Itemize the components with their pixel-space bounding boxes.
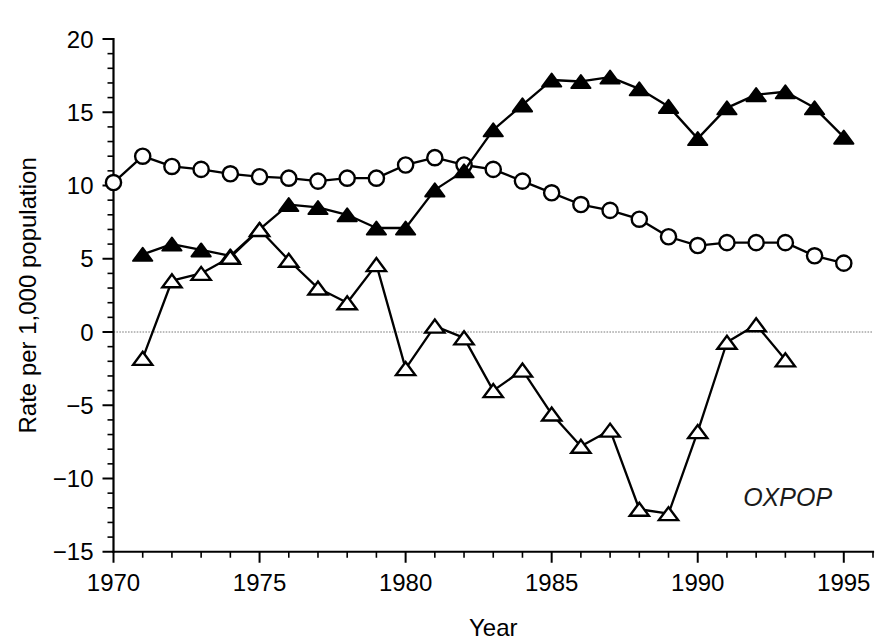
data-point-open-triangle bbox=[367, 258, 386, 271]
x-tick-label: 1980 bbox=[379, 569, 432, 596]
data-point-open-circle bbox=[836, 256, 851, 271]
y-tick-label: 20 bbox=[67, 26, 94, 53]
annotation-layer: OXPOP bbox=[743, 483, 832, 511]
data-point-open-triangle bbox=[513, 364, 532, 377]
y-tick-label: 10 bbox=[67, 172, 94, 199]
data-point-filled-triangle bbox=[630, 82, 649, 95]
data-point-open-circle bbox=[807, 248, 822, 263]
data-point-filled-triangle bbox=[834, 131, 853, 144]
data-point-open-circle bbox=[340, 171, 355, 186]
data-point-open-circle bbox=[164, 159, 179, 174]
data-point-open-circle bbox=[573, 197, 588, 212]
data-point-open-triangle bbox=[425, 320, 444, 333]
data-point-filled-triangle bbox=[192, 243, 211, 256]
data-point-open-triangle bbox=[454, 331, 473, 344]
data-point-open-circle bbox=[749, 235, 764, 250]
data-point-open-circle bbox=[106, 175, 121, 190]
y-axis-title: Rate per 1,000 population bbox=[14, 157, 41, 433]
data-point-open-triangle bbox=[162, 274, 181, 287]
data-point-open-circle bbox=[603, 203, 618, 218]
data-point-filled-triangle bbox=[717, 101, 736, 114]
x-tick-label: 1995 bbox=[817, 569, 870, 596]
data-point-open-triangle bbox=[776, 353, 795, 366]
y-tick-label: 5 bbox=[80, 245, 93, 272]
data-point-open-circle bbox=[778, 235, 793, 250]
data-point-open-circle bbox=[632, 212, 647, 227]
y-tick-label: −10 bbox=[53, 465, 94, 492]
data-point-open-circle bbox=[515, 174, 530, 189]
line-chart-plot: −15−10−505101520197019751980198519901995… bbox=[0, 0, 879, 642]
axes-layer bbox=[114, 39, 874, 552]
data-point-open-triangle bbox=[747, 318, 766, 331]
x-axis-title: Year bbox=[469, 614, 518, 641]
data-point-open-triangle bbox=[542, 408, 561, 421]
data-point-open-circle bbox=[310, 174, 325, 189]
chart-figure: −15−10−505101520197019751980198519901995… bbox=[0, 0, 879, 642]
data-series-layer bbox=[106, 71, 853, 521]
data-point-filled-triangle bbox=[133, 248, 152, 261]
x-tick-label: 1970 bbox=[87, 569, 140, 596]
y-tick-label: −5 bbox=[66, 392, 93, 419]
chart-annotation-oxpop: OXPOP bbox=[743, 483, 832, 511]
x-tick-label: 1985 bbox=[525, 569, 578, 596]
y-tick-label: 0 bbox=[80, 319, 93, 346]
y-tick-label: 15 bbox=[67, 99, 94, 126]
series-line bbox=[143, 229, 786, 513]
series-open-triangle-series bbox=[133, 223, 795, 520]
data-point-open-circle bbox=[427, 150, 442, 165]
y-tick-label: −15 bbox=[53, 538, 94, 565]
data-point-open-circle bbox=[544, 185, 559, 200]
data-point-open-triangle bbox=[600, 424, 619, 437]
data-point-open-circle bbox=[252, 169, 267, 184]
data-point-open-circle bbox=[486, 162, 501, 177]
data-point-open-triangle bbox=[308, 282, 327, 295]
data-point-open-triangle bbox=[396, 362, 415, 375]
data-point-open-triangle bbox=[279, 254, 298, 267]
data-point-open-circle bbox=[194, 162, 209, 177]
data-point-open-circle bbox=[690, 238, 705, 253]
data-point-open-circle bbox=[661, 229, 676, 244]
data-point-filled-triangle bbox=[688, 132, 707, 145]
x-tick-label: 1990 bbox=[671, 569, 724, 596]
data-point-open-circle bbox=[369, 171, 384, 186]
data-point-open-circle bbox=[398, 157, 413, 172]
data-point-open-circle bbox=[719, 235, 734, 250]
data-point-filled-triangle bbox=[162, 238, 181, 251]
data-point-open-circle bbox=[281, 171, 296, 186]
x-tick-label: 1975 bbox=[233, 569, 286, 596]
data-point-open-triangle bbox=[133, 352, 152, 365]
data-point-open-triangle bbox=[688, 425, 707, 438]
data-point-filled-triangle bbox=[338, 208, 357, 221]
data-point-open-circle bbox=[135, 149, 150, 164]
data-point-open-circle bbox=[223, 166, 238, 181]
